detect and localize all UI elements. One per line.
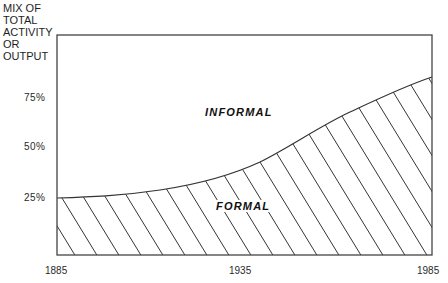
x-tick-1885: 1885: [45, 265, 67, 276]
informal-label: INFORMAL: [205, 106, 273, 118]
formal-label: FORMAL: [214, 200, 272, 212]
x-tick-1935: 1935: [229, 265, 251, 276]
chart-plot: [0, 0, 448, 283]
x-tick-1985: 1985: [417, 265, 439, 276]
formal-area: [57, 60, 433, 260]
